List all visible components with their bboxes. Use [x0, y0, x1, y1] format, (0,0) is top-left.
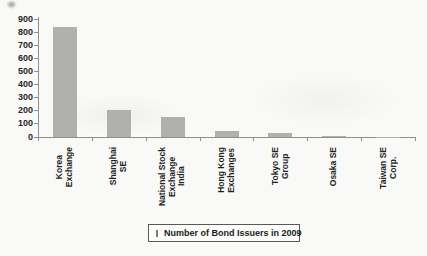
y-tick-label: 800: [0, 27, 33, 37]
legend-label: Number of Bond Issuers in 2009: [164, 228, 302, 238]
x-label-slot: Hong Kong Exchanges: [200, 147, 254, 229]
x-tick-mark: [253, 138, 254, 141]
bar-5: [268, 133, 292, 137]
x-tick-mark: [415, 138, 416, 141]
x-label-slot: Korea Exchange: [38, 147, 92, 229]
legend-marker-icon: [156, 230, 158, 237]
x-tick-label: Taiwan SE Corp.: [379, 147, 398, 189]
bar-4: [215, 131, 239, 137]
x-label-slot: National Stock Exchange India: [146, 147, 200, 229]
bar-3: [161, 117, 185, 137]
y-tick-label: 300: [0, 92, 33, 102]
y-tick-label: 900: [0, 14, 33, 24]
bar-2: [107, 110, 131, 137]
y-tick-label: 100: [0, 118, 33, 128]
x-tick-mark: [307, 138, 308, 141]
x-tick-label: Tokyo SE Group: [271, 147, 290, 185]
x-tick-label: Shanghai SE: [109, 147, 128, 185]
x-tick-mark: [146, 138, 147, 141]
x-tick-label: Korea Exchange: [55, 147, 74, 187]
x-tick-mark: [92, 138, 93, 141]
y-tick-label: 200: [0, 105, 33, 115]
x-label-slot: Osaka SE: [307, 147, 361, 229]
x-tick-label: Hong Kong Exchanges: [217, 147, 236, 193]
x-tick-mark: [38, 138, 39, 141]
x-label-slot: Taiwan SE Corp.: [361, 147, 415, 229]
x-axis-line: [38, 137, 416, 138]
y-axis-line: [38, 17, 39, 137]
x-tick-label: National Stock Exchange India: [158, 147, 187, 206]
y-tick-label: 0: [0, 132, 33, 142]
x-tick-mark: [361, 138, 362, 141]
bar-chart: 0100200300400500600700800900 Korea Excha…: [0, 0, 427, 256]
legend: Number of Bond Issuers in 2009: [148, 224, 300, 242]
x-tick-mark: [200, 138, 201, 141]
x-label-slot: Shanghai SE: [92, 147, 146, 229]
bar-6: [322, 136, 346, 137]
y-tick-label: 700: [0, 40, 33, 50]
plot-area: 0100200300400500600700800900 Korea Excha…: [0, 0, 427, 256]
y-tick-label: 600: [0, 53, 33, 63]
y-tick-label: 400: [0, 79, 33, 89]
y-tick-label: 500: [0, 66, 33, 76]
x-tick-label: Osaka SE: [329, 147, 339, 186]
bar-1: [53, 27, 77, 137]
x-label-slot: Tokyo SE Group: [253, 147, 307, 229]
